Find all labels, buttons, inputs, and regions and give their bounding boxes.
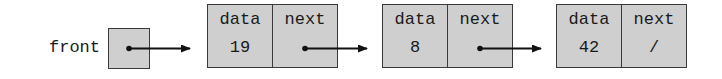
- list-node-1: data 19 next: [207, 4, 338, 68]
- node-1-data-header: data: [208, 10, 272, 30]
- node-3-data-cell: data 42: [557, 5, 621, 67]
- node-1-data-value: 19: [208, 38, 272, 58]
- list-node-3: data 42 next /: [556, 4, 687, 68]
- node-3-next-cell: next /: [621, 5, 686, 67]
- node-1-data-cell: data 19: [208, 5, 272, 67]
- list-node-2: data 8 next: [382, 4, 513, 68]
- node-3-null-terminator: /: [622, 38, 686, 58]
- node-3-next-header: next: [622, 10, 686, 30]
- node-3-data-value: 42: [557, 38, 621, 58]
- node-2-next-cell: next: [447, 5, 512, 67]
- node-1-next-header: next: [273, 10, 337, 30]
- front-label: front: [49, 38, 100, 58]
- node-2-data-value: 8: [383, 38, 447, 58]
- node-1-next-cell: next: [272, 5, 337, 67]
- front-pointer-box: [108, 28, 150, 69]
- node-2-data-cell: data 8: [383, 5, 447, 67]
- node-2-data-header: data: [383, 10, 447, 30]
- node-3-data-header: data: [557, 10, 621, 30]
- node-2-next-header: next: [448, 10, 512, 30]
